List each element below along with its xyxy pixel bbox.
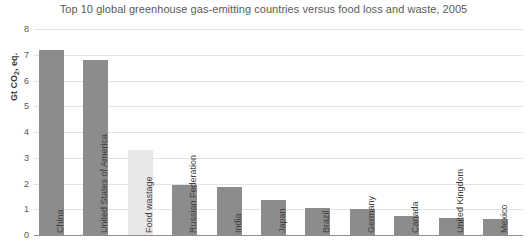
bar-group[interactable]: United Kingdom xyxy=(439,29,464,235)
plot-area: 012345678 ChinaUnited States of AmericaF… xyxy=(34,29,523,235)
x-axis-category-label: Food wastage xyxy=(145,176,154,233)
y-axis-title: Gt CO2, eq. xyxy=(9,32,19,122)
bar[interactable] xyxy=(39,50,64,235)
x-axis-line xyxy=(34,235,523,236)
bar-group[interactable]: Germany xyxy=(350,29,375,235)
bar-group[interactable]: China xyxy=(39,29,64,235)
bar-group[interactable]: Brazil xyxy=(305,29,330,235)
x-axis-category-label: India xyxy=(234,213,243,233)
y-axis-tick-label: 6 xyxy=(24,76,29,85)
bar-group[interactable]: India xyxy=(217,29,242,235)
y-axis-title-tail: , eq. xyxy=(9,53,19,71)
y-axis-tick-label: 1 xyxy=(24,205,29,214)
bar-group[interactable]: Canada xyxy=(394,29,419,235)
y-axis-tick-label: 7 xyxy=(24,50,29,59)
y-axis-title-base: Gt CO xyxy=(9,75,19,101)
bar-group[interactable]: Japan xyxy=(261,29,286,235)
bar-group[interactable]: Food wastage xyxy=(128,29,153,235)
chart-title: Top 10 global greenhouse gas-emitting co… xyxy=(0,3,527,15)
x-axis-category-label: China xyxy=(56,209,65,233)
y-axis-tick-label: 0 xyxy=(24,231,29,240)
x-axis-category-label: Russian Federation xyxy=(189,155,198,233)
bars-layer: ChinaUnited States of AmericaFood wastag… xyxy=(34,29,523,235)
x-axis-category-label: Mexico xyxy=(500,204,509,233)
y-axis-tick-label: 2 xyxy=(24,179,29,188)
x-axis-category-label: Germany xyxy=(367,196,376,233)
y-axis-title-subscript: 2 xyxy=(13,71,20,75)
y-axis-tick-label: 3 xyxy=(24,153,29,162)
x-axis-category-label: Japan xyxy=(278,208,287,233)
x-axis-category-label: United States of America xyxy=(100,134,109,233)
y-axis-tick-label: 5 xyxy=(24,102,29,111)
bar-group[interactable]: Russian Federation xyxy=(172,29,197,235)
x-axis-category-label: United Kingdom xyxy=(456,169,465,233)
y-axis-tick-label: 4 xyxy=(24,128,29,137)
y-axis-tick-label: 8 xyxy=(24,25,29,34)
x-axis-category-label: Canada xyxy=(411,201,420,233)
bar-group[interactable]: Mexico xyxy=(483,29,508,235)
x-axis-category-label: Brazil xyxy=(322,210,331,233)
bar-chart: Top 10 global greenhouse gas-emitting co… xyxy=(0,0,527,249)
bar-group[interactable]: United States of America xyxy=(83,29,108,235)
